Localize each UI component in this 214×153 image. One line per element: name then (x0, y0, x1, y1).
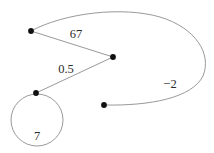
diagram-canvas: 67 0.5 −2 7 (0, 0, 214, 153)
node-n2 (110, 54, 116, 60)
edge-large-arc-minus2 (31, 12, 205, 105)
node-n3 (33, 90, 39, 96)
edge-label-67: 67 (70, 27, 83, 41)
edge-0point5 (36, 57, 113, 93)
edge-label-minus2: −2 (163, 77, 176, 91)
edge-label-0point5: 0.5 (58, 62, 74, 76)
self-loop-label-7: 7 (34, 129, 40, 143)
node-n1 (28, 28, 34, 34)
node-n4 (101, 102, 107, 108)
graph-diagram: 67 0.5 −2 7 (0, 0, 214, 153)
